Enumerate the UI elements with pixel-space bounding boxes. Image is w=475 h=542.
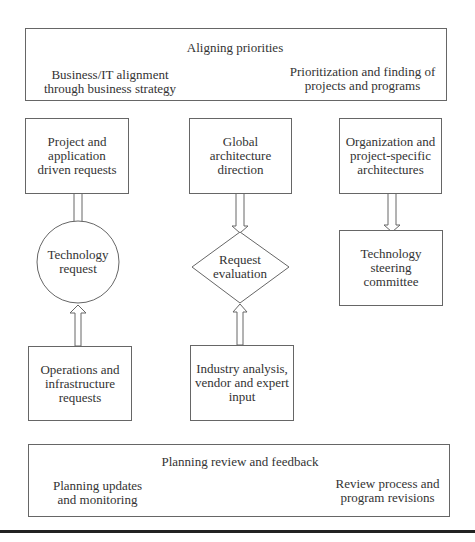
business-it-alignment-label: Business/IT alignment through business s… [30,67,190,97]
planning-updates-label: Planning updates and monitoring [35,478,160,508]
planning-review-title: Planning review and feedback [150,455,330,469]
prioritization-label: Prioritization and finding of projects a… [280,64,445,94]
review-process-label: Review process and program revisions [325,476,450,506]
arrow-up-middle [233,304,247,345]
arrow-up-left [70,305,86,346]
organization-architectures-box: Organization and project-specific archit… [339,118,442,194]
project-application-requests-box: Project and application driven requests [25,118,129,194]
arrow-down-right [384,193,400,232]
global-architecture-direction-box: Global architecture direction [189,118,292,194]
arrow-down-middle [232,193,248,233]
industry-analysis-box: Industry analysis, vendor and expert inp… [190,345,294,421]
aligning-priorities-title: Aligning priorities [140,41,330,55]
bottom-rule [0,530,475,533]
request-evaluation-label: Request evaluation [200,252,280,282]
technology-request-label: Technology request [40,247,116,277]
technology-steering-committee-box: Technology steering committee [339,230,443,306]
operations-infrastructure-requests-box: Operations and infrastructure requests [28,346,132,421]
